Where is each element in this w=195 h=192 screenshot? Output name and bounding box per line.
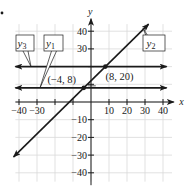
series-label-sub: 3: [22, 42, 26, 51]
series-label-sub: 1: [51, 42, 55, 51]
intersection-point: [103, 64, 108, 69]
annotation-8-20: (8, 20): [105, 71, 133, 83]
x-tick-label: −30: [29, 105, 45, 116]
y-tick-label: −40: [71, 167, 87, 178]
y-tick-label: −20: [71, 132, 87, 143]
x-tick-label: 20: [122, 105, 132, 116]
x-tick-label: 30: [140, 105, 150, 116]
callout-tail: [23, 51, 31, 67]
y-tick-label: 30: [77, 43, 87, 54]
series-label-sub: 2: [151, 42, 155, 51]
x-axis-label: x: [178, 96, 184, 107]
axes: xy: [15, 6, 184, 185]
intersection-point: [82, 86, 87, 91]
graph: xy −40−30102030404030−10−20−30−40 y3y1y2…: [0, 0, 195, 192]
x-tick-label: 40: [158, 105, 168, 116]
annotation-neg4-8: (−4, 8): [47, 74, 76, 86]
y-axis-label: y: [87, 6, 93, 17]
y-tick-label: 40: [77, 26, 87, 37]
marker-dot: [1, 12, 4, 15]
x-tick-label: 10: [104, 105, 114, 116]
y-tick-label: −10: [71, 114, 87, 125]
y-tick-label: −30: [71, 150, 87, 161]
x-tick-label: −40: [11, 105, 27, 116]
